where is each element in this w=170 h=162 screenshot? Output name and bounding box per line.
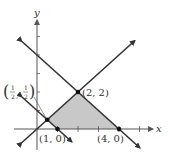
vertex-half-half <box>45 117 50 122</box>
vertex-2-2 <box>76 90 81 95</box>
graph: x y (2, 2) (1, 0) (4, 0) ( 1 2 , 1 2 ) <box>0 0 170 162</box>
label-4-0: (4, 0) <box>97 133 124 144</box>
label-1-0: (1, 0) <box>39 133 66 144</box>
label-2-2: (2, 2) <box>82 87 109 98</box>
vertex-1-0 <box>55 127 60 132</box>
label-half-half: ( 1 2 , 1 2 ) <box>3 82 35 101</box>
y-axis <box>37 20 40 150</box>
svg-text:2: 2 <box>24 93 28 100</box>
y-axis-label: y <box>33 7 40 18</box>
svg-text:1: 1 <box>11 84 15 91</box>
svg-text:,: , <box>16 92 18 100</box>
x-axis-label: x <box>156 123 162 134</box>
svg-text:(: ( <box>3 82 9 101</box>
vertex-4-0 <box>117 127 122 132</box>
leader-line <box>34 97 46 118</box>
svg-text:): ) <box>29 82 35 101</box>
svg-text:2: 2 <box>11 93 15 100</box>
svg-text:1: 1 <box>24 84 28 91</box>
